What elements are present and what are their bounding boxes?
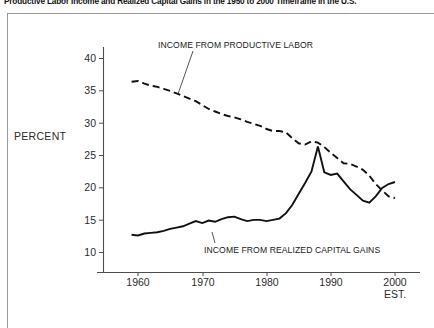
y-tick-marks <box>99 59 103 253</box>
x-axis-estimate-note: EST. <box>370 288 420 300</box>
x-tick-label-1990: 1990 <box>306 277 356 288</box>
annotation-productive-labor: INCOME FROM PRODUCTIVE LABOR <box>158 40 313 50</box>
chart-page: Productive Labor Income and Realized Cap… <box>0 0 434 328</box>
annotation-capital-gains: INCOME FROM REALIZED CAPITAL GAINS <box>204 245 380 255</box>
y-tick-label-30: 30 <box>70 118 96 129</box>
y-tick-label-25: 25 <box>70 150 96 161</box>
y-axis-title: PERCENT <box>14 130 66 142</box>
leader-line-capital-gains <box>212 232 215 243</box>
y-tick-label-15: 15 <box>70 215 96 226</box>
x-tick-label-2000: 2000 <box>370 277 420 288</box>
series-line-capital-gains <box>132 147 395 236</box>
y-tick-label-40: 40 <box>70 53 96 64</box>
series-line-productive-labor <box>132 81 395 198</box>
leader-line-productive-labor <box>178 51 193 94</box>
x-tick-label-1960: 1960 <box>113 277 163 288</box>
x-tick-label-1970: 1970 <box>178 277 228 288</box>
y-tick-label-20: 20 <box>70 182 96 193</box>
y-tick-label-10: 10 <box>70 247 96 258</box>
x-tick-label-1980: 1980 <box>242 277 292 288</box>
y-tick-label-35: 35 <box>70 85 96 96</box>
